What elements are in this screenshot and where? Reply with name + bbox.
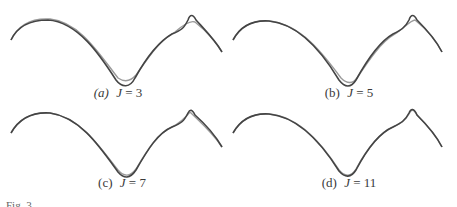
approx-curve	[11, 112, 222, 175]
approx-curve	[233, 20, 442, 83]
variable: J	[120, 175, 126, 190]
panel-c: (c) J = 7	[0, 97, 228, 194]
panel-a: (a) J = 3	[0, 0, 228, 97]
panel-tag: (d)	[322, 175, 337, 190]
original-curve	[233, 109, 442, 176]
panel-label-d: (d) J = 11	[322, 175, 377, 191]
approx-curve	[233, 110, 442, 175]
panel-label-c: (c) J = 7	[98, 175, 146, 191]
equals: =	[353, 175, 360, 190]
original-curve	[233, 16, 442, 87]
variable: J	[344, 175, 350, 190]
curve-plot-d	[229, 97, 457, 187]
curve-plot-b	[229, 0, 457, 90]
curve-plot-c	[0, 97, 228, 187]
curve-plot-a	[0, 0, 228, 90]
equals: =	[129, 175, 136, 190]
figure-caption: Fig. 3.	[6, 199, 34, 207]
panel-d: (d) J = 11	[229, 97, 457, 194]
approx-curve	[11, 19, 222, 81]
panel-b: (b) J = 5	[229, 0, 457, 97]
value: 11	[364, 175, 377, 190]
panel-tag: (c)	[98, 175, 112, 190]
value: 7	[139, 175, 146, 190]
